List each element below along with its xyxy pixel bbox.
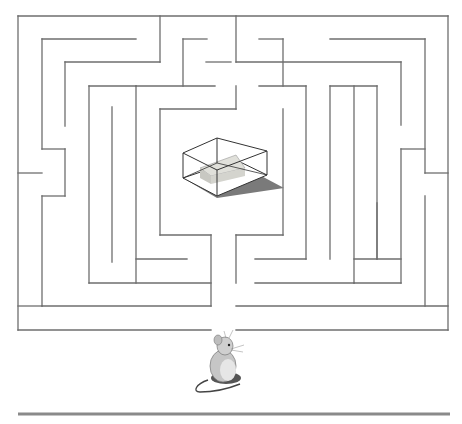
mouse-icon[interactable] <box>196 330 244 392</box>
cheese-box-icon[interactable] <box>183 138 284 198</box>
mouse-eye <box>228 344 230 346</box>
maze-board <box>0 0 462 424</box>
mouse-belly <box>220 359 236 381</box>
mouse-ear <box>214 335 222 345</box>
